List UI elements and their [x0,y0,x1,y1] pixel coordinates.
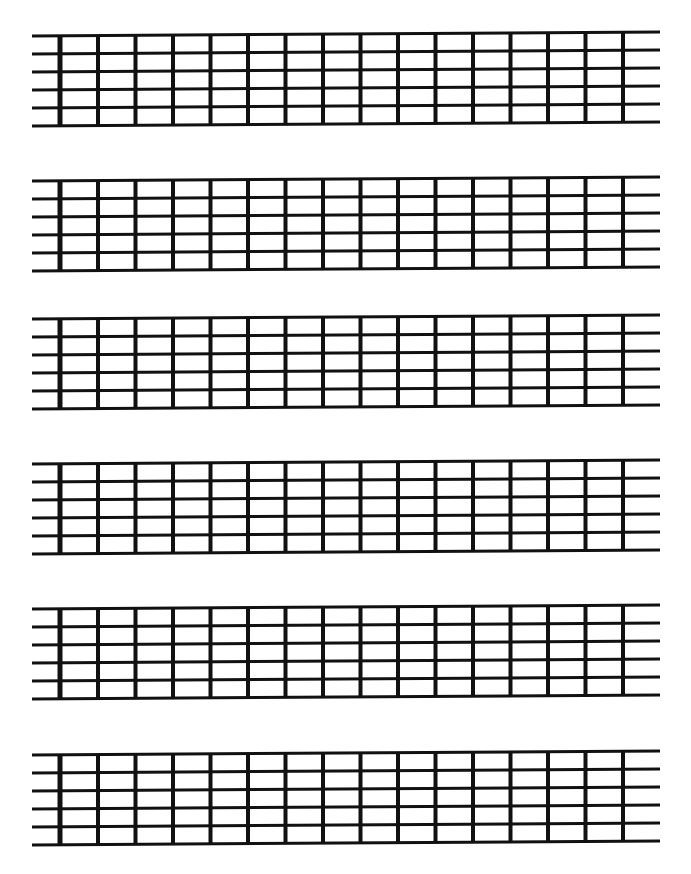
string-line [32,787,660,791]
fretboard-grid [0,456,691,560]
string-line [32,267,660,271]
fretboard-grid [0,601,691,705]
frets-group [60,460,623,554]
string-line [32,751,660,755]
string-line [32,659,660,663]
string-line [32,86,660,90]
frets-group [60,605,623,699]
fretboard-diagram [0,311,691,415]
string-line [32,122,660,126]
fretboard-diagram [0,456,691,560]
fretboard-diagram [0,173,691,277]
string-line [32,769,660,773]
string-line [32,369,660,373]
string-line [32,351,660,355]
string-line [32,249,660,253]
fretboard-grid [0,311,691,415]
string-line [32,823,660,827]
string-line [32,550,660,554]
string-line [32,514,660,518]
string-line [32,460,660,464]
worksheet-page [0,0,691,874]
strings-group [32,315,660,409]
string-line [32,532,660,536]
string-line [32,333,660,337]
string-line [32,50,660,54]
frets-group [60,32,623,126]
string-line [32,641,660,645]
string-line [32,695,660,699]
frets-group [60,177,623,271]
strings-group [32,751,660,845]
string-line [32,315,660,319]
strings-group [32,605,660,699]
fretboard-diagram [0,28,691,132]
string-line [32,623,660,627]
string-line [32,496,660,500]
string-line [32,32,660,36]
frets-group [60,315,623,409]
string-line [32,405,660,409]
string-line [32,478,660,482]
strings-group [32,177,660,271]
string-line [32,177,660,181]
string-line [32,805,660,809]
frets-group [60,751,623,845]
strings-group [32,32,660,126]
strings-group [32,460,660,554]
fretboard-grid [0,747,691,851]
string-line [32,68,660,72]
string-line [32,104,660,108]
string-line [32,195,660,199]
string-line [32,605,660,609]
string-line [32,841,660,845]
fretboard-diagram [0,747,691,851]
string-line [32,231,660,235]
string-line [32,387,660,391]
string-line [32,677,660,681]
fretboard-diagram [0,601,691,705]
fretboard-grid [0,28,691,132]
fretboard-grid [0,173,691,277]
string-line [32,213,660,217]
